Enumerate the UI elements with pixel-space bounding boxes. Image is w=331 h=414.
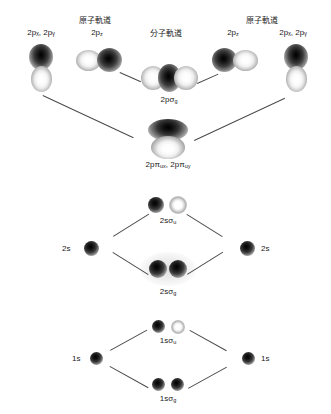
label-1s-sigma-g: 1sσg: [160, 395, 176, 403]
label-2p-z-left: 2pz: [91, 29, 103, 37]
orbital-1s-sigma-g: [152, 378, 186, 392]
connector-1s-left-to-sigma-g: [110, 366, 149, 388]
label-2s-left: 2s: [62, 245, 70, 253]
header-atomic-orbital-right: 原子軌道: [246, 14, 278, 25]
connector-2pxy-right-to-pi: [194, 98, 285, 141]
connector-2s-left-to-sigma-u: [113, 214, 149, 237]
orbital-1s-sigma-u: [152, 320, 186, 334]
connector-1s-right-to-sigma-u: [190, 330, 227, 351]
header-atomic-orbital-left: 原子軌道: [79, 14, 111, 25]
orbital-2s-right: [240, 241, 255, 256]
connector-2pxy-left-to-pi: [43, 95, 134, 138]
label-1s-sigma-u: 1sσu: [160, 337, 176, 345]
connector-2s-right-to-sigma-u: [186, 214, 222, 237]
connector-2pz-right-to-sigma: [197, 74, 218, 84]
header-molecular-orbital: 分子軌道: [150, 27, 182, 38]
orbital-2p-xy-right: [283, 44, 309, 92]
label-2s-sigma-g: 2sσg: [160, 288, 176, 296]
label-2p-z-right: 2pz: [227, 29, 239, 37]
label-1s-left: 1s: [72, 355, 80, 363]
orbital-1s-right: [242, 352, 255, 365]
molecular-orbital-diagram: 原子軌道 分子軌道 原子軌道 2pₓ, 2pᵧ 2pz 2pz 2pₓ, 2pᵧ…: [0, 0, 331, 414]
label-2p-sigma-g: 2pσg: [161, 96, 178, 104]
orbital-2p-pi-u: [146, 119, 190, 159]
label-2s-right: 2s: [261, 245, 269, 253]
label-2p-xy-right: 2pₓ, 2pᵧ: [279, 29, 306, 37]
orbital-2p-xy-left: [28, 44, 54, 92]
label-1s-right: 1s: [261, 355, 269, 363]
connector-2pz-left-to-sigma: [120, 72, 141, 82]
connector-1s-right-to-sigma-g: [188, 367, 227, 389]
label-2p-xy-left: 2pₓ, 2pᵧ: [27, 29, 54, 37]
orbital-2s-left: [84, 241, 99, 256]
orbital-2p-z-left: [76, 48, 122, 72]
label-2p-pi-u: 2pπux, 2pπuy: [146, 161, 191, 169]
orbital-2s-sigma-g: [140, 252, 196, 286]
orbital-2p-z-right: [212, 48, 258, 72]
connector-1s-left-to-sigma-u: [110, 330, 147, 351]
orbital-2s-sigma-u: [148, 196, 190, 214]
label-2s-sigma-u: 2sσu: [160, 217, 176, 225]
orbital-2p-sigma-g: [141, 64, 197, 92]
orbital-1s-left: [90, 352, 103, 365]
